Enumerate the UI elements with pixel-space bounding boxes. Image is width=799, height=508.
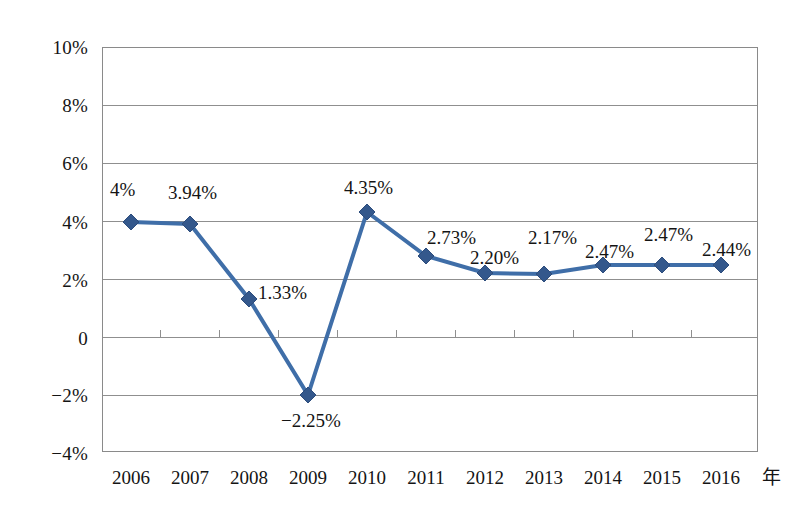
x-axis-tick bbox=[396, 330, 397, 337]
gridline-4 bbox=[103, 221, 757, 222]
gridline-neg2 bbox=[103, 395, 757, 396]
x-axis-tick bbox=[455, 330, 456, 337]
gridline-2 bbox=[103, 279, 757, 280]
x-axis-tick bbox=[278, 330, 279, 337]
gridline-0 bbox=[103, 337, 757, 338]
x-axis-tick bbox=[337, 330, 338, 337]
y-axis-label-0: 0 bbox=[10, 329, 88, 348]
data-label-2008: 1.33% bbox=[258, 283, 307, 302]
y-axis-label-6: 6% bbox=[10, 154, 88, 173]
x-axis-unit-label: 年 bbox=[762, 468, 781, 487]
data-label-2010: 4.35% bbox=[344, 178, 393, 197]
x-axis-tick bbox=[514, 330, 515, 337]
y-axis-label-8: 8% bbox=[10, 96, 88, 115]
x-axis-tick bbox=[632, 330, 633, 337]
plot-area bbox=[102, 47, 758, 452]
y-axis-label-10: 10% bbox=[10, 38, 88, 57]
x-axis-tick bbox=[219, 330, 220, 337]
data-label-2016: 2.44% bbox=[702, 240, 751, 259]
data-label-2014: 2.47% bbox=[585, 242, 634, 261]
x-axis-label-2016: 2016 bbox=[686, 468, 756, 487]
data-label-2006: 4% bbox=[110, 180, 135, 199]
gridline-6 bbox=[103, 163, 757, 164]
y-axis-label-4: 4% bbox=[10, 213, 88, 232]
y-axis-label-neg2: −2% bbox=[10, 386, 88, 405]
data-label-2009: −2.25% bbox=[281, 411, 341, 430]
y-axis-label-2: 2% bbox=[10, 271, 88, 290]
gridline-8 bbox=[103, 105, 757, 106]
data-label-2012: 2.20% bbox=[470, 248, 519, 267]
data-label-2007: 3.94% bbox=[168, 183, 217, 202]
x-axis-tick bbox=[160, 330, 161, 337]
data-label-2015: 2.47% bbox=[644, 225, 693, 244]
data-label-2013: 2.17% bbox=[528, 228, 577, 247]
x-axis-tick bbox=[691, 330, 692, 337]
y-axis-label-neg4: −4% bbox=[10, 444, 88, 463]
data-label-2011: 2.73% bbox=[427, 228, 476, 247]
line-chart: 10% 8% 6% 4% 2% 0 −2% −4% bbox=[0, 0, 799, 508]
x-axis-tick bbox=[573, 330, 574, 337]
